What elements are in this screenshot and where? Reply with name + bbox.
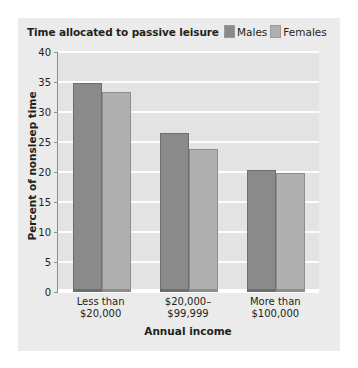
y-axis-tick (54, 202, 58, 203)
y-axis-tick (54, 82, 58, 83)
y-axis-tick (54, 292, 58, 293)
chart-figure: Time allocated to passive leisure Males … (0, 0, 358, 368)
plot-area: 0510152025303540 (57, 52, 319, 292)
y-tick-label: 5 (45, 257, 51, 268)
y-axis-tick (54, 112, 58, 113)
y-tick-label: 20 (38, 167, 51, 178)
legend-label-females: Females (283, 26, 326, 38)
bar-females-0 (102, 92, 131, 292)
legend-swatch-females-icon (270, 25, 281, 38)
y-tick-label: 30 (38, 107, 51, 118)
chart-title: Time allocated to passive leisure (27, 26, 219, 38)
chart-legend: Males Females (224, 25, 327, 38)
bar-females-2 (276, 173, 305, 292)
bar-males-2 (247, 170, 276, 292)
x-tick-label-line: $100,000 (215, 308, 335, 320)
legend-item-males: Males (224, 25, 267, 38)
y-tick-label: 35 (38, 77, 51, 88)
y-axis-tick (54, 232, 58, 233)
x-tick-label-line: More than (215, 296, 335, 308)
y-axis-tick (54, 142, 58, 143)
y-tick-label: 40 (38, 47, 51, 58)
y-axis-tick (54, 172, 58, 173)
y-tick-label: 25 (38, 137, 51, 148)
legend-swatch-males-icon (224, 25, 235, 38)
bar-males-1 (160, 133, 189, 292)
legend-item-females: Females (270, 25, 326, 38)
x-tick-label: More than$100,000 (215, 296, 335, 320)
y-axis-title: Percent of nonsleep time (26, 71, 38, 261)
legend-label-males: Males (237, 26, 267, 38)
gridline (58, 51, 319, 53)
y-tick-label: 15 (38, 197, 51, 208)
y-tick-label: 10 (38, 227, 51, 238)
bar-males-0 (73, 83, 102, 292)
x-axis-title: Annual income (57, 325, 319, 337)
bar-females-1 (189, 149, 218, 292)
y-axis-tick (54, 52, 58, 53)
y-axis-tick (54, 262, 58, 263)
